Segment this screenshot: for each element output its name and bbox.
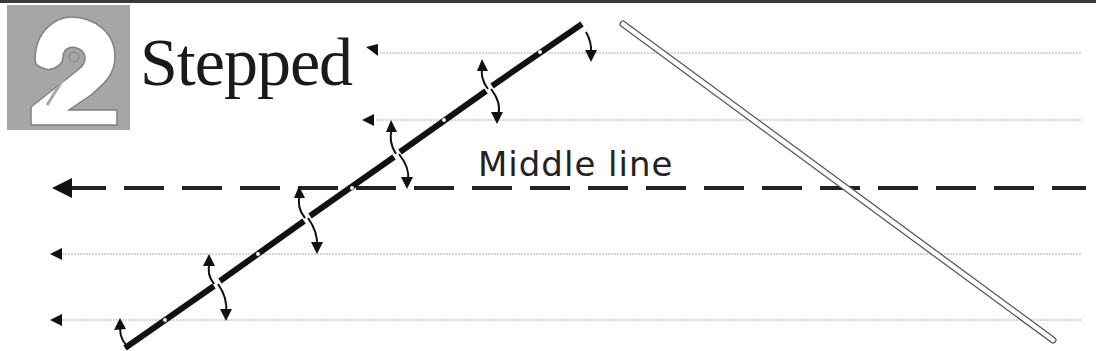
- arrow-left-icon: [52, 178, 72, 198]
- arrowhead-down-icon: [585, 50, 597, 62]
- arrowhead-left-icon: [362, 114, 374, 126]
- arrowhead-down-icon: [311, 242, 323, 254]
- arrowhead-up-icon: [386, 120, 397, 132]
- arrowhead-up-icon: [114, 318, 126, 330]
- ruler-line: [623, 24, 1053, 340]
- arrowhead-down-icon: [491, 112, 503, 124]
- arrowhead-down-icon: [401, 177, 413, 189]
- middle-line-label: Middle line: [478, 147, 673, 181]
- arrowhead-left-icon: [50, 248, 62, 260]
- arrowhead-up-icon: [203, 254, 215, 266]
- arrowhead-down-icon: [220, 309, 232, 321]
- arrowhead-left-icon: [50, 314, 62, 326]
- arrowhead-up-icon: [477, 59, 488, 71]
- arrowhead-left-icon: [366, 44, 378, 56]
